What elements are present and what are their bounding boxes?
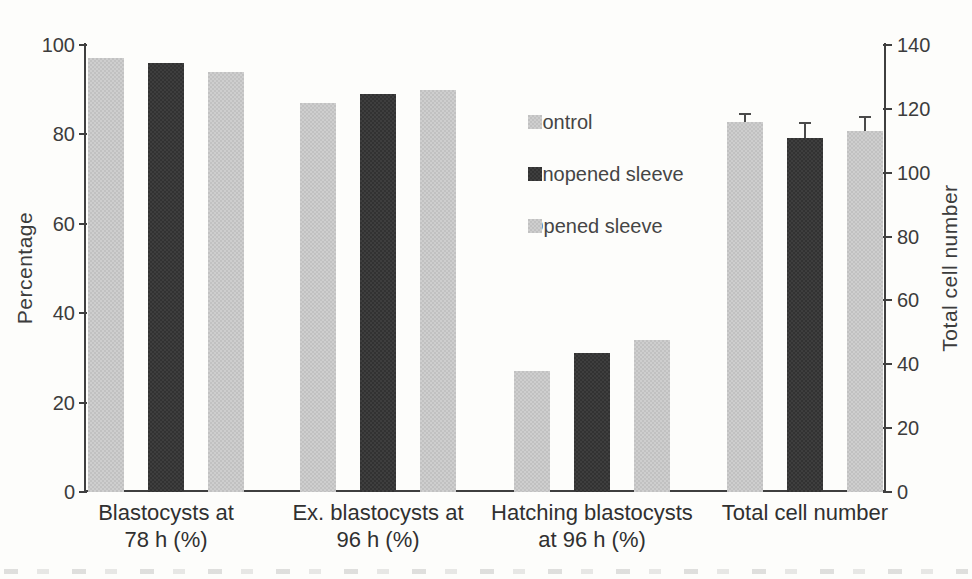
legend: ControlUnopened sleeveOpened sleeve (528, 109, 684, 265)
legend-label: Opened sleeve (528, 215, 663, 238)
legend-item-0: Control (528, 109, 684, 135)
left-axis-tick (79, 491, 87, 493)
right-axis-tick-label: 20 (897, 417, 919, 439)
left-axis-tick-label: 40 (31, 302, 75, 324)
left-axis-tick (79, 44, 87, 46)
right-axis-tick (883, 299, 892, 301)
left-axis-tick-label: 20 (31, 392, 75, 414)
right-axis-tick (883, 363, 892, 365)
right-axis-tick-label: 60 (897, 289, 919, 311)
error-bar-3-0 (744, 114, 746, 122)
bar-1-0 (300, 103, 336, 492)
left-axis-tick (79, 402, 87, 404)
right-axis-tick (883, 108, 892, 110)
left-axis-line (84, 43, 86, 492)
bar-2-0 (514, 371, 550, 492)
error-bar-3-2 (864, 117, 866, 131)
bar-chart-figure: Percentage Total cell number 02040608010… (0, 0, 972, 579)
category-label-line: Total cell number (675, 499, 935, 526)
right-axis-tick (883, 236, 892, 238)
bar-3-1 (787, 138, 823, 492)
bar-1-2 (420, 90, 456, 492)
legend-swatch (528, 167, 542, 181)
error-cap-3-0 (739, 113, 751, 115)
bar-2-1 (574, 353, 610, 492)
right-axis-tick (883, 491, 892, 493)
right-axis-tick (883, 427, 892, 429)
legend-item-2: Opened sleeve (528, 213, 684, 239)
left-axis-tick (79, 312, 87, 314)
error-cap-3-1 (799, 122, 811, 124)
bar-0-2 (208, 72, 244, 492)
right-axis-tick-label: 140 (897, 34, 930, 56)
bar-0-0 (88, 58, 124, 492)
right-axis-tick-label: 120 (897, 98, 930, 120)
right-axis-title: Total cell number (938, 184, 962, 351)
category-label-3: Total cell number (675, 499, 935, 526)
left-axis-tick (79, 223, 87, 225)
left-axis-tick-label: 80 (31, 123, 75, 145)
right-axis-tick-label: 100 (897, 162, 930, 184)
bar-2-2 (634, 340, 670, 492)
bar-3-0 (727, 122, 763, 492)
error-cap-3-2 (859, 116, 871, 118)
left-axis-tick-label: 100 (31, 34, 75, 56)
legend-item-1: Unopened sleeve (528, 161, 684, 187)
bar-0-1 (148, 63, 184, 492)
left-axis-tick (79, 133, 87, 135)
right-axis-tick-label: 40 (897, 353, 919, 375)
bar-1-1 (360, 94, 396, 492)
cropped-caption-remnant (4, 569, 968, 574)
left-axis-tick-label: 60 (31, 213, 75, 235)
right-axis-tick (883, 44, 892, 46)
legend-swatch (528, 115, 542, 129)
x-axis-line (84, 490, 886, 492)
bar-3-2 (847, 131, 883, 492)
right-axis-line (884, 43, 886, 492)
category-label-line: at 96 h (%) (462, 526, 722, 553)
legend-swatch (528, 219, 542, 233)
error-bar-3-1 (804, 123, 806, 137)
right-axis-tick-label: 80 (897, 226, 919, 248)
right-axis-tick (883, 172, 892, 174)
legend-label: Unopened sleeve (528, 163, 684, 186)
